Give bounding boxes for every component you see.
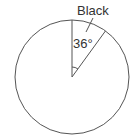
slice-label-black: Black	[77, 3, 109, 18]
slice-angle-label: 36°	[73, 36, 93, 51]
pie-chart: Black 36°	[0, 0, 137, 140]
